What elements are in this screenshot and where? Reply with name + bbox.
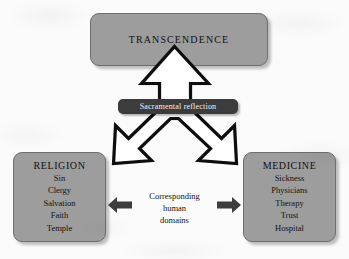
- corresponding-line-2: human: [163, 202, 186, 214]
- banner-sacramental-reflection: Sacramental reflection: [118, 99, 238, 114]
- node-medicine-item: Hospital: [275, 222, 304, 234]
- node-medicine-item: Sickness: [275, 172, 305, 184]
- banner-sacramental-reflection-label: Sacramental reflection: [140, 102, 217, 111]
- node-religion-item: Faith: [51, 209, 68, 221]
- node-religion-item: Sin: [54, 172, 65, 184]
- node-religion-title: RELIGION: [33, 160, 85, 171]
- node-religion-item: Clergy: [48, 184, 71, 196]
- node-medicine-item: Physicians: [271, 184, 307, 196]
- corresponding-human-domains-label: Corresponding human domains: [124, 184, 225, 232]
- diagram-canvas: TRANSCENDENCE Sacramental reflection REL…: [0, 0, 349, 259]
- node-medicine-title: MEDICINE: [263, 160, 317, 171]
- corresponding-line-1: Corresponding: [149, 190, 200, 202]
- node-medicine-item: Therapy: [275, 197, 303, 209]
- arrow-right-icon: [217, 196, 241, 214]
- node-religion-item: Temple: [47, 222, 72, 234]
- node-medicine: MEDICINE Sickness Physicians Therapy Tru…: [243, 152, 336, 242]
- node-medicine-item: Trust: [281, 209, 299, 221]
- corresponding-line-3: domains: [160, 214, 189, 226]
- node-religion-item: Salvation: [43, 197, 75, 209]
- arrow-left-icon: [108, 196, 132, 214]
- node-religion: RELIGION Sin Clergy Salvation Faith Temp…: [13, 152, 106, 242]
